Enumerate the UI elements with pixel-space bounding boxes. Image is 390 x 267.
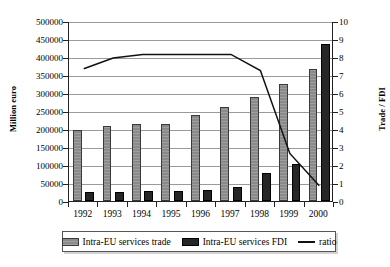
y-axis-left-tick-label: 300000 [3,90,63,99]
x-axis-label: 2000 [298,209,338,219]
legend-item-ratio: ratio [298,237,336,247]
x-axis-tickmark [156,202,157,207]
x-axis-tickmark [186,202,187,207]
y-axis-right-tick-label: 1 [339,180,363,189]
y-axis-left-tick-label: 0 [3,198,63,207]
x-axis-tickmark [97,202,98,207]
legend-item-fdi: Intra-EU services FDI [182,237,287,247]
chart-figure: Million euro Trade / FDI 050000100000150… [0,0,390,267]
y-axis-left-tick-label: 400000 [3,54,63,63]
y-axis-left-tick-label: 350000 [3,72,63,81]
y-axis-right-tick-label: 10 [339,18,363,27]
y-axis-left-tick-label: 50000 [3,180,63,189]
y-axis-right-tick-label: 6 [339,90,363,99]
legend-item-trade: Intra-EU services trade [62,237,171,247]
y-axis-left-tick-label: 450000 [3,36,63,45]
y-axis-left-tick-label: 150000 [3,144,63,153]
ratio-line-series [69,22,334,202]
x-axis-tickmark [333,202,334,207]
ratio-line-path [84,54,320,185]
y-axis-left-tick-label: 100000 [3,162,63,171]
x-axis-tickmark [215,202,216,207]
x-axis-tickmark [304,202,305,207]
plot-area [68,22,333,202]
y-axis-right-tick-label: 3 [339,144,363,153]
legend-label-fdi: Intra-EU services FDI [203,237,287,247]
y-axis-right-tick-label: 8 [339,54,363,63]
x-axis-tickmark [68,202,69,207]
chart-legend: Intra-EU services trade Intra-EU service… [62,231,336,252]
legend-swatch-trade-icon [62,238,79,246]
y-axis-left-tick-label: 500000 [3,18,63,27]
legend-label-trade: Intra-EU services trade [83,237,171,247]
legend-swatch-fdi-icon [182,238,199,246]
y-axis-left-tick-label: 250000 [3,108,63,117]
y-axis-right-tick-label: 5 [339,108,363,117]
y-axis-right-title: Trade / FDI [377,74,387,144]
x-axis-tickmark [245,202,246,207]
legend-label-ratio: ratio [319,237,336,247]
x-axis-tickmark [127,202,128,207]
y-axis-right-tick-label: 7 [339,72,363,81]
y-axis-right-tick-label: 2 [339,162,363,171]
x-axis-tickmark [274,202,275,207]
y-axis-right-tick-label: 0 [339,198,363,207]
y-axis-left-tick-label: 200000 [3,126,63,135]
y-axis-right-tick-label: 4 [339,126,363,135]
legend-swatch-ratio-icon [298,241,315,243]
y-axis-right-tick-label: 9 [339,36,363,45]
